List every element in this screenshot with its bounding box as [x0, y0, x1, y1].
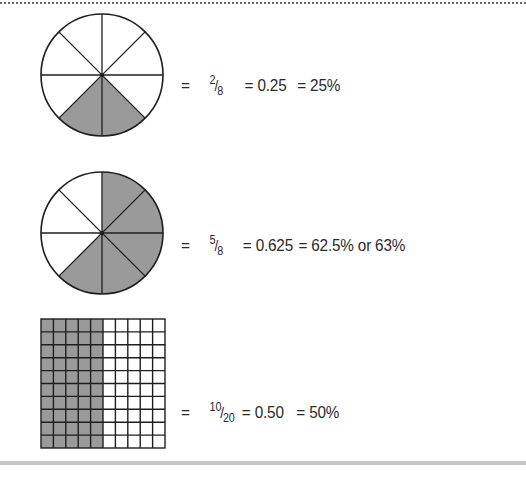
percent-value: = 62.5% or 63%	[298, 236, 405, 256]
decimal-value: = 0.50	[242, 403, 284, 423]
equals-sign: =	[181, 236, 190, 256]
decimal-value: = 0.25	[245, 76, 287, 96]
decimal-value: = 0.625	[243, 236, 293, 256]
equation-five-eighths: =5/8= 0.625= 62.5% or 63%	[181, 236, 405, 256]
top-dotted-border	[0, 2, 526, 4]
denominator: 20	[223, 411, 235, 425]
circle-five-eighths	[38, 166, 172, 300]
fraction: 10/20	[210, 403, 235, 423]
equals-sign: =	[181, 76, 190, 96]
equation-ten-twentieths: =10/20= 0.50= 50%	[181, 403, 339, 423]
equals-sign: =	[181, 403, 190, 423]
denominator: 8	[217, 84, 223, 98]
fraction: 5/8	[210, 236, 223, 256]
numerator: 5	[210, 233, 216, 247]
percent-value: = 50%	[296, 403, 339, 423]
denominator: 8	[217, 244, 223, 258]
bottom-divider	[0, 461, 526, 465]
equation-two-eighths: =2/8= 0.25= 25%	[181, 76, 340, 96]
numerator: 10	[210, 400, 222, 414]
percent-value: = 25%	[297, 76, 340, 96]
circle-two-eighths	[38, 8, 172, 142]
numerator: 2	[210, 73, 216, 87]
fraction: 2/8	[210, 76, 223, 96]
grid-half-shaded	[40, 318, 168, 450]
